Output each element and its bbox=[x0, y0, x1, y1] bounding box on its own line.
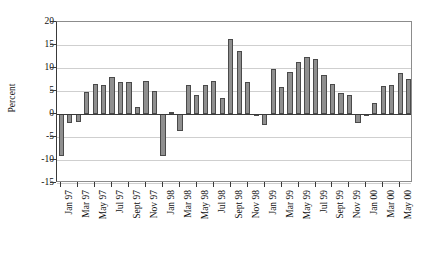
bar bbox=[389, 85, 394, 114]
x-axis-tick-mark bbox=[281, 182, 282, 187]
bar bbox=[203, 85, 208, 114]
bar bbox=[372, 103, 377, 114]
bar bbox=[321, 75, 326, 114]
gridline bbox=[57, 183, 411, 184]
x-axis-tick-label: Mar 00 bbox=[386, 190, 396, 218]
bar bbox=[135, 107, 140, 114]
bar bbox=[211, 81, 216, 114]
bar bbox=[347, 95, 352, 114]
bar bbox=[245, 82, 250, 114]
bar bbox=[406, 79, 411, 114]
x-axis-tick-label: Jan 99 bbox=[268, 190, 278, 215]
bar bbox=[220, 98, 225, 114]
x-axis-tick-label: Nov 99 bbox=[352, 190, 362, 218]
bar bbox=[76, 114, 81, 122]
x-axis-tick-mark bbox=[128, 182, 129, 187]
x-axis-tick-mark bbox=[348, 182, 349, 187]
x-axis-tick-mark bbox=[60, 182, 61, 187]
bar bbox=[237, 51, 242, 114]
x-axis-tick-mark bbox=[196, 182, 197, 187]
bar bbox=[186, 85, 191, 114]
x-axis-tick-mark bbox=[382, 182, 383, 187]
bar bbox=[262, 114, 267, 125]
x-axis-tick-label: May 00 bbox=[403, 190, 413, 219]
bar bbox=[296, 62, 301, 114]
x-axis-tick-label: Jan 97 bbox=[64, 190, 74, 215]
bar bbox=[59, 114, 64, 156]
x-axis-tick-label: Sept 98 bbox=[234, 190, 244, 219]
bar bbox=[271, 69, 276, 114]
bar bbox=[118, 82, 123, 114]
x-axis-tick-mark bbox=[264, 182, 265, 187]
x-axis-tick-mark bbox=[247, 182, 248, 187]
bar bbox=[177, 114, 182, 131]
bar bbox=[101, 85, 106, 114]
bar bbox=[398, 73, 403, 114]
x-axis-tick-label: Nov 98 bbox=[251, 190, 261, 218]
x-axis-tick-mark bbox=[94, 182, 95, 187]
plot-area bbox=[56, 21, 412, 182]
x-axis-tick-label: Jul 97 bbox=[115, 190, 125, 213]
bar-chart-figure: Percent -15-10-505101520 Jan 97Mar 97May… bbox=[0, 0, 428, 254]
bar bbox=[152, 91, 157, 114]
bar bbox=[287, 72, 292, 114]
bar bbox=[338, 93, 343, 114]
zero-baseline bbox=[57, 114, 411, 115]
y-axis-tick-mark bbox=[50, 182, 56, 183]
bar bbox=[313, 59, 318, 114]
x-axis-tick-mark bbox=[111, 182, 112, 187]
x-axis-tick-mark bbox=[77, 182, 78, 187]
bar bbox=[228, 39, 233, 114]
x-axis-tick-mark bbox=[399, 182, 400, 187]
bar bbox=[67, 114, 72, 123]
bar bbox=[143, 81, 148, 114]
x-axis-tick-label: May 97 bbox=[98, 190, 108, 219]
gridline bbox=[57, 160, 411, 161]
x-axis-tick-label: Jan 98 bbox=[166, 190, 176, 215]
bar bbox=[304, 57, 309, 115]
bar bbox=[330, 84, 335, 114]
bar bbox=[355, 114, 360, 123]
x-axis-tick-label: Mar 98 bbox=[183, 190, 193, 218]
x-axis-tick-mark bbox=[365, 182, 366, 187]
x-axis-tick-label: Jan 00 bbox=[369, 190, 379, 215]
x-axis-tick-label: Nov 97 bbox=[149, 190, 159, 218]
x-axis-tick-mark bbox=[298, 182, 299, 187]
y-axis-title-text: Percent bbox=[7, 83, 17, 112]
y-axis-title: Percent bbox=[2, 0, 22, 195]
x-axis-tick-mark bbox=[179, 182, 180, 187]
bar bbox=[126, 82, 131, 114]
x-axis-tick-label: Mar 97 bbox=[81, 190, 91, 218]
x-axis-tick-label: May 99 bbox=[302, 190, 312, 219]
x-axis-tick-label: Mar 99 bbox=[285, 190, 295, 218]
gridline bbox=[57, 137, 411, 138]
gridline bbox=[57, 68, 411, 69]
bar bbox=[84, 92, 89, 114]
x-axis-tick-mark bbox=[162, 182, 163, 187]
x-axis-tick-label: Sept 97 bbox=[132, 190, 142, 219]
x-axis-tick-mark bbox=[331, 182, 332, 187]
x-axis-tick-mark bbox=[213, 182, 214, 187]
x-axis-tick-label: Jul 99 bbox=[319, 190, 329, 213]
x-axis-tick-label: Sept 99 bbox=[335, 190, 345, 219]
x-axis-tick-label: Jul 98 bbox=[217, 190, 227, 213]
bar bbox=[93, 84, 98, 114]
x-axis-tick-label: May 98 bbox=[200, 190, 210, 219]
bar bbox=[194, 95, 199, 114]
bar bbox=[381, 86, 386, 114]
bar bbox=[279, 87, 284, 114]
x-axis-tick-mark bbox=[230, 182, 231, 187]
bar bbox=[160, 114, 165, 156]
x-axis-tick-mark bbox=[315, 182, 316, 187]
bar bbox=[109, 77, 114, 114]
gridline bbox=[57, 45, 411, 46]
x-axis-tick-mark bbox=[145, 182, 146, 187]
